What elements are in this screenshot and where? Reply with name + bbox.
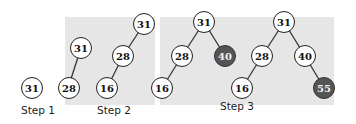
tree-node: 16 (231, 77, 253, 99)
tree-node: 31 (273, 11, 295, 33)
tree-node: 31 (193, 11, 215, 33)
tree-node: 16 (96, 77, 118, 99)
tree-node: 16 (151, 77, 173, 99)
tree-node-highlighted: 55 (313, 77, 335, 99)
tree-node: 31 (21, 77, 43, 99)
tree-node: 28 (112, 45, 134, 67)
step-label: Step 1 (21, 104, 55, 116)
tree-node: 28 (58, 77, 80, 99)
tree-node: 40 (294, 45, 316, 67)
tree-node: 28 (171, 45, 193, 67)
tree-node: 28 (251, 45, 273, 67)
tree-node: 31 (70, 37, 92, 59)
tree-node: 31 (133, 13, 155, 35)
step-label: Step 2 (97, 104, 131, 116)
step-label: Step 3 (220, 100, 254, 112)
tree-node-highlighted: 40 (214, 45, 236, 67)
